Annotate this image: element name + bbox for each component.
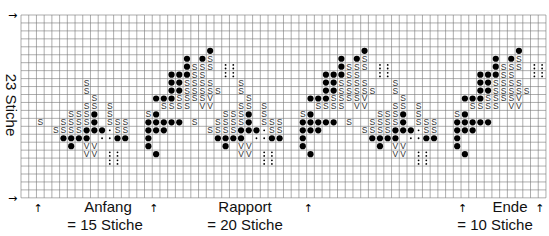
small-dot-icon (109, 129, 111, 131)
stitch-symbol: V (362, 101, 368, 111)
stitch-dot-icon (323, 72, 329, 78)
stitch-dot-icon (462, 111, 468, 117)
stitch-symbol: S (501, 93, 507, 103)
stitch-dot-icon (277, 135, 283, 141)
colon-icon (232, 64, 234, 66)
stitch-symbol: S (369, 86, 375, 96)
stitch-dot-icon (161, 119, 167, 125)
arrow-right-top-icon: → (8, 9, 17, 22)
stitch-dot-icon (246, 119, 252, 125)
colon-icon (225, 72, 227, 74)
stitch-dot-icon (315, 119, 321, 125)
stitch-dot-icon (423, 135, 429, 141)
small-dot-icon (418, 129, 420, 131)
stitch-dot-icon (68, 135, 74, 141)
colon-icon (225, 64, 227, 66)
stitch-dot-icon (462, 119, 468, 125)
stitch-dot-icon (145, 127, 151, 133)
stitch-symbol: S (346, 117, 352, 127)
stitch-symbol: S (223, 125, 229, 135)
stitch-symbol: S (192, 93, 198, 103)
stitch-symbol: S (369, 125, 375, 135)
stitch-symbol: S (393, 86, 399, 96)
stitch-symbol: S (431, 125, 437, 135)
stitch-symbol: S (176, 101, 182, 111)
stitch-symbol: S (300, 109, 306, 119)
stitch-dot-icon (168, 79, 174, 85)
small-dot-icon (256, 137, 258, 139)
stitch-dot-icon (323, 87, 329, 93)
stitch-dot-icon (323, 79, 329, 85)
anfang-title: Anfang (58, 198, 158, 216)
anfang-count: = 15 Stiche (40, 216, 170, 234)
stitch-symbol: S (215, 86, 221, 96)
grid-lines (21, 15, 546, 198)
stitch-dot-icon (477, 79, 483, 85)
small-dot-icon (263, 129, 265, 131)
stitch-dot-icon (323, 119, 329, 125)
stitch-dot-icon (114, 135, 120, 141)
stitch-dot-icon (315, 127, 321, 133)
stitch-symbol: S (122, 125, 128, 135)
stitch-symbol: V (200, 101, 206, 111)
stitch-symbol: S (393, 117, 399, 127)
colon-icon (379, 72, 381, 74)
rapport-count: = 20 Stiche (180, 216, 310, 234)
stitch-symbol: S (385, 125, 391, 135)
stitch-dot-icon (385, 135, 391, 141)
stitch-dot-icon (454, 127, 460, 133)
stitch-dot-icon (99, 127, 105, 133)
stitch-dot-icon (485, 72, 491, 78)
stitch-symbol: S (215, 125, 221, 135)
stitch-symbol: S (261, 117, 267, 127)
stitch-symbol: S (146, 109, 152, 119)
colon-icon (263, 159, 265, 161)
stitch-dot-icon (145, 119, 151, 125)
stitch-symbol: S (362, 125, 368, 135)
stitch-symbol: S (331, 101, 337, 111)
stitch-symbol: S (339, 101, 345, 111)
stitch-symbol: S (37, 117, 43, 127)
stitch-symbol: V (92, 149, 98, 159)
stitch-dot-icon (477, 119, 483, 125)
colon-icon (533, 72, 535, 74)
stitch-symbol: S (246, 101, 252, 111)
stitch-symbol: S (76, 125, 82, 135)
colon-icon (271, 159, 273, 161)
stitch-symbol: S (207, 62, 213, 72)
colon-icon (263, 151, 265, 153)
stitch-dot-icon (91, 119, 97, 125)
stitch-dot-icon (493, 64, 499, 70)
stitch-symbol: V (246, 149, 252, 159)
stitch-dot-icon (153, 119, 159, 125)
colon-icon (418, 151, 420, 153)
stitch-symbol: S (346, 93, 352, 103)
stitch-dot-icon (300, 119, 306, 125)
stitch-dot-icon (145, 143, 151, 149)
stitch-dot-icon (153, 151, 159, 157)
stitch-symbol: S (238, 86, 244, 96)
stitch-dot-icon (145, 135, 151, 141)
stitch-dot-icon (477, 72, 483, 78)
colon-icon (379, 64, 381, 66)
stitch-dot-icon (84, 127, 90, 133)
stitch-dot-icon (462, 127, 468, 133)
stitch-symbol: V (516, 101, 522, 111)
stitch-dot-icon (400, 111, 406, 117)
stitch-dot-icon (222, 143, 228, 149)
stitch-dot-icon (400, 119, 406, 125)
y-axis-label: 23 Stiche (0, 65, 20, 145)
stitch-symbol: S (192, 117, 198, 127)
stitch-dot-icon (300, 135, 306, 141)
stitch-dot-icon (307, 95, 313, 101)
stitch-dot-icon (253, 127, 259, 133)
stitch-dot-icon (470, 127, 476, 133)
stitch-dot-icon (392, 127, 398, 133)
stitch-dot-icon (230, 135, 236, 141)
small-dot-icon (101, 137, 103, 139)
small-dot-icon (418, 137, 420, 139)
stitch-dot-icon (377, 135, 383, 141)
stitch-symbol: V (238, 149, 244, 159)
stitch-symbol: V (207, 101, 213, 111)
ende-title: Ende (470, 198, 549, 216)
